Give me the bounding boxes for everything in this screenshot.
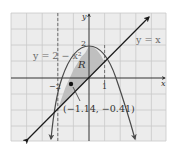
tick-label-x-1: 1 (102, 82, 107, 91)
tick-label-x-neg2: −2 (49, 82, 61, 91)
tick-label-y-2: 2 (81, 39, 86, 48)
parabola-label: y = 2 − x² (32, 50, 82, 61)
x-axis-label: x (161, 79, 166, 88)
y-axis-label: y (81, 12, 87, 21)
region-label: R (77, 59, 86, 70)
line-label: y = x (135, 34, 161, 45)
region-between-curves-diagram: y x 2 −2 1 y = 2 − x² y = x R (−1.14, −0… (0, 0, 176, 154)
point-label: (−1.14, −0.41) (63, 103, 135, 114)
point-marker (69, 82, 73, 86)
